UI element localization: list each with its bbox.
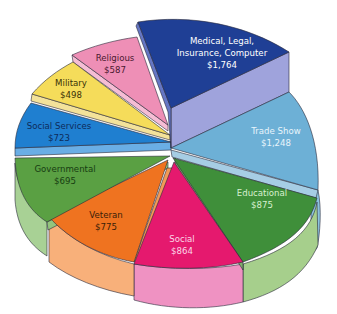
svg-text:$695: $695 [54,176,76,186]
svg-text:$498: $498 [60,90,82,100]
svg-text:$1,248: $1,248 [261,138,291,148]
svg-text:$723: $723 [48,133,70,143]
svg-text:$587: $587 [104,65,126,75]
svg-text:Social Services: Social Services [27,121,92,131]
svg-text:Insurance, Computer: Insurance, Computer [177,48,268,58]
svg-text:$1,764: $1,764 [207,60,237,70]
svg-text:Educational: Educational [237,188,287,198]
svg-text:Medical, Legal,: Medical, Legal, [190,36,254,46]
svg-text:Governmental: Governmental [34,164,95,174]
svg-text:$875: $875 [251,200,273,210]
svg-text:$775: $775 [95,222,117,232]
svg-text:Veteran: Veteran [89,210,122,220]
svg-text:Military: Military [55,78,87,88]
slice-side-social [134,264,243,308]
svg-text:Social: Social [169,234,194,244]
svg-text:Trade Show: Trade Show [250,126,300,136]
svg-text:Religious: Religious [96,53,135,63]
pie-chart: Medical, Legal, Insurance, Computer $1,7… [0,0,337,314]
svg-text:$864: $864 [171,246,193,256]
